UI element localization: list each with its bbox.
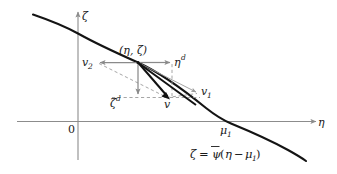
psi-curve	[33, 15, 306, 162]
v1-label: v 1	[201, 85, 212, 100]
figure-container: ζ η 0 (η, ζ) μ 1 v 2 η d	[0, 0, 337, 174]
eta-d-superscript: d	[181, 53, 186, 62]
curve-equation-label: ζ = ψ ( η − μ 1 )	[190, 147, 261, 164]
zeta-d-label: ζ d	[110, 94, 121, 110]
y-axis-label: ζ	[82, 10, 89, 23]
equation-arg-eta: η	[225, 147, 232, 161]
vector-v-upper	[139, 63, 168, 97]
dashed-v2-to-v	[99, 64, 167, 98]
math-diagram-svg: ζ η 0 (η, ζ) μ 1 v 2 η d	[0, 0, 337, 174]
point-markers-group	[136, 61, 139, 64]
base-point-marker	[136, 61, 139, 64]
function-curve-group	[33, 15, 306, 162]
mu-subscript: 1	[227, 130, 232, 139]
x-axis-label: η	[318, 116, 325, 129]
eta-d-base: η	[174, 56, 181, 69]
v-label: v	[164, 98, 171, 111]
zeta-d-superscript: d	[116, 94, 121, 103]
equation-paren-open: (	[220, 147, 225, 161]
v2-subscript: 2	[87, 62, 93, 71]
v1-subscript: 1	[207, 91, 212, 100]
labels-group: ζ η 0 (η, ζ) μ 1 v 2 η d	[68, 10, 325, 163]
equation-minus: −	[234, 147, 244, 161]
equation-equals: =	[199, 147, 209, 161]
base-point-label: (η, ζ)	[119, 44, 147, 57]
eta-d-label: η d	[174, 53, 186, 69]
v2-label: v 2	[82, 56, 93, 71]
axes-group	[17, 12, 316, 160]
mu-1-label: μ 1	[220, 124, 232, 139]
equation-paren-close: )	[256, 147, 261, 161]
equation-lhs: ζ	[190, 147, 197, 161]
origin-label: 0	[68, 123, 75, 136]
